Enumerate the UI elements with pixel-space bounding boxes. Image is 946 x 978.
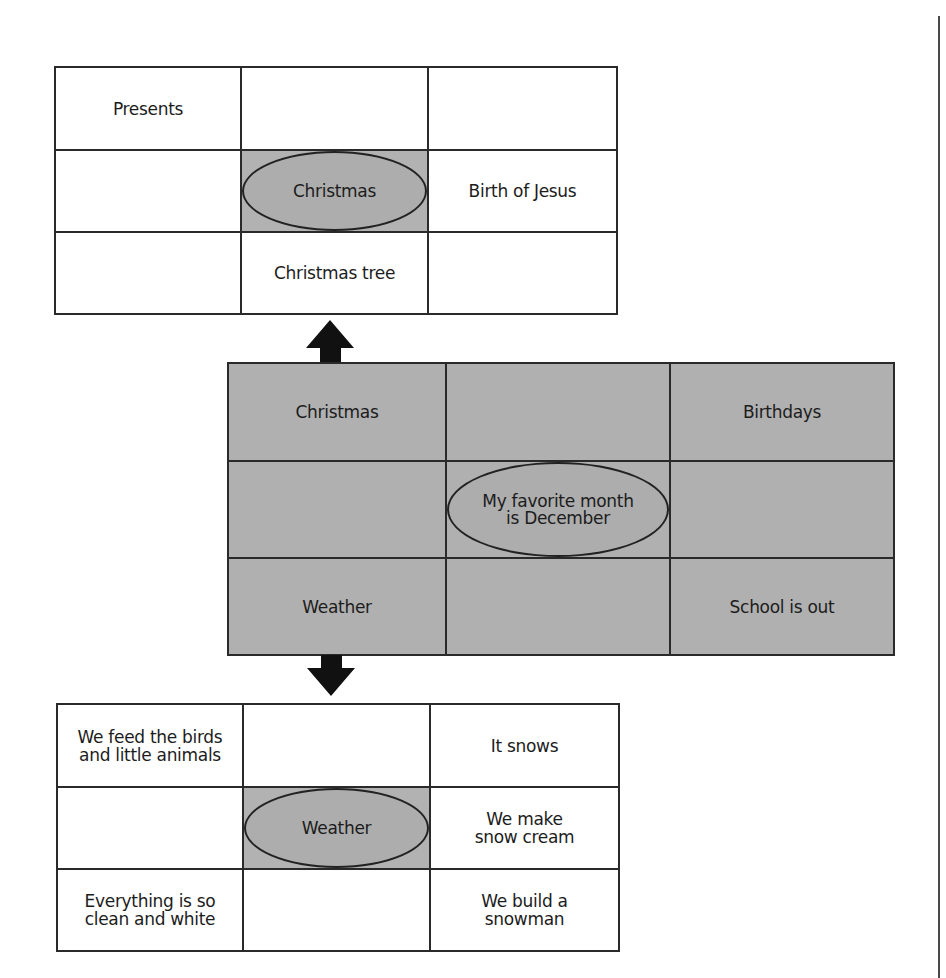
mid-cell-1-3: Birthdays <box>671 364 893 462</box>
down-arrow-icon <box>306 655 356 697</box>
mid-center-label-line1: My favorite month <box>482 493 633 510</box>
top-cell-1-2 <box>242 68 429 151</box>
center-oval: Christmas <box>242 151 427 231</box>
top-cell-2-1 <box>56 151 242 233</box>
mid-cell-3-1: Weather <box>229 559 447 654</box>
top-cell-1-3 <box>429 68 616 151</box>
top-cell-3-2: Christmas tree <box>242 233 429 313</box>
mid-center-cell: My favorite month is December <box>447 462 671 559</box>
bottom-grid-weather: We feed the birds and little animals It … <box>56 703 620 952</box>
bot-cell-3-3: We build a snowman <box>431 870 618 950</box>
center-oval: Weather <box>244 788 429 868</box>
bot-cell-1-3: It snows <box>431 705 618 788</box>
mid-cell-3-3: School is out <box>671 559 893 654</box>
top-cell-2-3: Birth of Jesus <box>429 151 616 233</box>
top-cell-3-1 <box>56 233 242 313</box>
mid-cell-1-1: Christmas <box>229 364 447 462</box>
center-oval: My favorite month is December <box>447 462 669 557</box>
bot-cell-1-2 <box>244 705 431 788</box>
bot-cell-3-2 <box>244 870 431 950</box>
mid-cell-2-3 <box>671 462 893 559</box>
top-grid-christmas: Presents Christmas Birth of Jesus Christ… <box>54 66 618 315</box>
top-cell-3-3 <box>429 233 616 313</box>
mid-center-label-line2: is December <box>506 510 610 527</box>
top-cell-1-1: Presents <box>56 68 242 151</box>
mid-cell-1-2 <box>447 364 671 462</box>
bot-cell-3-1: Everything is so clean and white <box>58 870 244 950</box>
middle-grid-december: Christmas Birthdays My favorite month is… <box>227 362 895 656</box>
top-center-label: Christmas <box>293 182 376 200</box>
bot-cell-1-1: We feed the birds and little animals <box>58 705 244 788</box>
up-arrow-icon <box>305 320 355 366</box>
bot-cell-2-1 <box>58 788 244 870</box>
bot-center-label: Weather <box>302 819 371 837</box>
top-center-cell: Christmas <box>242 151 429 233</box>
mid-cell-3-2 <box>447 559 671 654</box>
mid-cell-2-1 <box>229 462 447 559</box>
bot-cell-2-3: We make snow cream <box>431 788 618 870</box>
bot-center-cell: Weather <box>244 788 431 870</box>
page-margin-rule <box>938 16 940 978</box>
